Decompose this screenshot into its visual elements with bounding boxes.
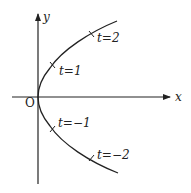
point-label-t1: t=1 xyxy=(59,64,82,78)
y-axis-label: y xyxy=(42,10,50,24)
tick-marks xyxy=(50,31,94,161)
point-label-tm1: t=−1 xyxy=(58,116,91,130)
parametric-curve-diagram: y x O t=2 t=1 t=−1 t=−2 xyxy=(0,0,191,193)
x-axis-label: x xyxy=(175,90,182,104)
origin-label: O xyxy=(25,96,35,110)
point-label-t2: t=2 xyxy=(97,31,120,45)
point-label-tm2: t=−2 xyxy=(97,148,130,162)
